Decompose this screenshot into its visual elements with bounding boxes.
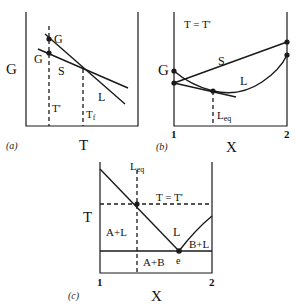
panel-b-caption: (b) — [156, 141, 168, 153]
panel-a-y-axis-label: G — [6, 61, 17, 77]
panel-c-x-tick-1: 1 — [97, 276, 103, 288]
eutectic-label: e — [176, 255, 181, 266]
panel-b-y-axis-label: G — [158, 62, 169, 78]
region-liquid: L — [173, 225, 180, 239]
common-tangent-line — [174, 83, 236, 97]
panel-b-title: T = T' — [184, 18, 211, 30]
lower-g-label: G — [34, 52, 43, 66]
panel-b: T = T' S L Leq G 1 2 X (b) — [156, 12, 290, 155]
panel-a-caption: (a) — [6, 140, 18, 152]
tf-label: Tf — [86, 108, 96, 122]
right-liquid-point — [284, 52, 289, 57]
panel-c: Leq T = T' A+L L B+L A+B e T 1 2 X (c) — [68, 160, 215, 304]
eutectic-point — [176, 248, 182, 254]
right-solid-point — [284, 39, 289, 44]
leq-label: Leq — [217, 109, 231, 123]
region-a-plus-l: A+L — [106, 226, 127, 238]
solid-gibbs-line — [38, 49, 128, 88]
left-liquid-point — [171, 68, 176, 73]
panel-a-x-axis-label: T — [79, 137, 88, 153]
panel-b-x-tick-1: 1 — [171, 128, 177, 140]
leq-label: Leq — [130, 160, 144, 174]
panel-c-caption: (c) — [68, 290, 80, 302]
region-b-plus-l: B+L — [189, 238, 210, 250]
panel-a-frame — [26, 12, 138, 126]
region-a-plus-b: A+B — [143, 256, 164, 268]
panel-c-y-axis-label: T — [83, 209, 92, 225]
solid-curve-label: S — [58, 64, 65, 78]
panel-b-x-axis-label: X — [226, 139, 237, 155]
panel-b-x-tick-2: 2 — [284, 128, 290, 140]
left-solid-point — [171, 80, 176, 85]
a-liquidus-line — [100, 169, 179, 251]
upper-g-point — [46, 36, 51, 41]
leq-point — [134, 201, 139, 206]
upper-g-label: G — [54, 32, 63, 46]
liquid-curve-label: L — [98, 90, 105, 104]
t-prime-label: T' — [52, 102, 61, 114]
tangent-point — [210, 88, 215, 93]
panel-a: G G S L T' Tf G T (a) — [6, 12, 138, 153]
phase-diagram-figure: G G S L T' Tf G T (a) T = T' S L Leq G 1… — [0, 0, 296, 308]
solid-curve-label: S — [218, 54, 225, 68]
panel-c-x-axis-label: X — [151, 288, 162, 304]
panel-c-x-tick-2: 2 — [209, 276, 215, 288]
isotherm-label: T = T' — [156, 191, 183, 203]
lower-g-point — [46, 50, 51, 55]
liquid-curve-label: L — [240, 74, 247, 88]
